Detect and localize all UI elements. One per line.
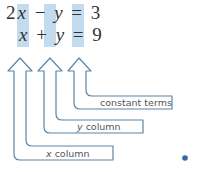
y-column-label: y column — [76, 121, 121, 132]
bullet-dot — [182, 155, 188, 161]
callout-arrows: constant terms y column x column — [0, 0, 197, 172]
x-column-label: x column — [45, 148, 90, 159]
constant-terms-label: constant terms — [100, 97, 172, 108]
